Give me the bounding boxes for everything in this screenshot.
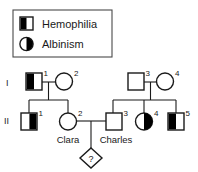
individual-I-4[interactable]: 4	[157, 69, 181, 90]
generation-label-I: I	[6, 78, 9, 88]
individual-name-clara: Clara	[57, 134, 80, 145]
individual-number-I-4: 4	[175, 69, 180, 78]
half-filled-circle-icon	[20, 37, 33, 50]
individual-II-4[interactable]: 4	[136, 109, 160, 130]
unknown-offspring-question-mark: ?	[88, 154, 93, 164]
individual-number-I-1: 1	[44, 69, 49, 78]
legend-label-hemophilia: Hemophilia	[42, 18, 98, 30]
individual-number-I-2: 2	[74, 69, 79, 78]
legend-item-albinism: Albinism	[20, 37, 84, 50]
individual-number-II-4: 4	[154, 109, 159, 118]
individual-number-I-3: 3	[146, 69, 151, 78]
individual-I-1[interactable]: 1	[26, 69, 49, 90]
individual-number-II-2: 2	[78, 109, 83, 118]
individual-unknown-offspring[interactable]: ?	[80, 148, 102, 168]
individual-I-2[interactable]: 2	[56, 69, 80, 90]
individual-name-charles: Charles	[100, 134, 133, 145]
half-filled-square-icon	[20, 17, 33, 30]
individual-number-II-1: 1	[39, 109, 44, 118]
individual-II-1[interactable]: 1	[21, 109, 44, 130]
legend: Hemophilia Albinism	[13, 10, 112, 57]
individual-I-3[interactable]: 3	[128, 69, 151, 90]
pedigree-chart: Hemophilia Albinism I II	[0, 0, 198, 172]
individual-II-2[interactable]: 2 Clara	[57, 109, 83, 145]
legend-item-hemophilia: Hemophilia	[20, 17, 98, 30]
individual-II-5[interactable]: 5	[168, 109, 191, 130]
legend-label-albinism: Albinism	[42, 38, 84, 50]
individual-number-II-5: 5	[186, 109, 191, 118]
individual-number-II-3: 3	[124, 109, 129, 118]
generation-label-II: II	[4, 116, 9, 126]
individual-II-3[interactable]: 3 Charles	[100, 109, 133, 145]
